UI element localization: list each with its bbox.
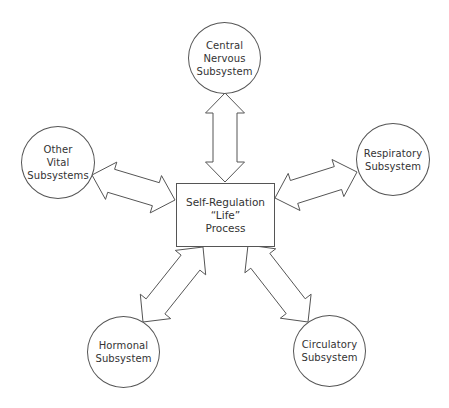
node-label-line: Subsystem [95, 352, 151, 365]
node-label-line: Subsystems [27, 169, 88, 182]
respiratory-subsystem-node: Respiratory Subsystem [356, 123, 430, 196]
box-label-line-3: Process [206, 222, 246, 235]
central-nervous-subsystem-node: Central Nervous Subsystem [188, 22, 261, 94]
arrow-center-to-central-nervous [206, 93, 245, 182]
node-label-line: Subsystem [301, 351, 357, 364]
arrow-center-to-circulatory [245, 245, 311, 322]
self-regulation-process-box: Self-Regulation “Life” Process [176, 183, 275, 247]
node-label-line: Circulatory [302, 338, 358, 351]
other-vital-subsystems-node: Other Vital Subsystems [21, 126, 95, 199]
box-label-line-2: “Life” [211, 209, 240, 222]
node-label-line: Respiratory [364, 147, 422, 160]
node-label-line: Subsystem [365, 160, 421, 173]
node-label-line: Other [44, 143, 73, 156]
node-label-line: Central [206, 39, 243, 52]
node-label-line: Hormonal [99, 339, 148, 352]
arrow-center-to-hormonal [140, 247, 205, 322]
diagram-canvas: Self-Regulation “Life” Process Central N… [0, 0, 449, 408]
node-label-line: Nervous [203, 52, 245, 65]
node-label-line: Vital [47, 156, 70, 169]
arrow-center-to-other-vital [92, 162, 175, 213]
node-label-line: Subsystem [196, 65, 252, 78]
arrow-center-to-respiratory [275, 160, 357, 211]
circulatory-subsystem-node: Circulatory Subsystem [293, 315, 366, 387]
box-label-line-1: Self-Regulation [186, 196, 265, 209]
hormonal-subsystem-node: Hormonal Subsystem [87, 316, 160, 388]
